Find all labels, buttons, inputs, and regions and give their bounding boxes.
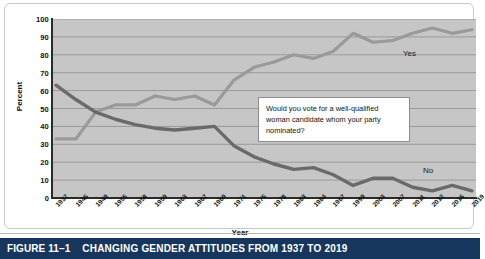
figure-title: CHANGING GENDER ATTITUDES FROM 1937 TO 2… [82,243,347,254]
y-axis-tick-column: 0102030405060708090100 [21,4,49,204]
y-axis-tick-label: 10 [25,176,49,185]
series-label-no: No [423,166,433,175]
y-axis-label: Percent [15,67,24,127]
figure-caption-bar: FIGURE 11–1 CHANGING GENDER ATTITUDES FR… [0,238,480,259]
y-axis-tick-label: 30 [25,140,49,149]
series-label-yes: Yes [403,49,416,58]
figure-number: FIGURE 11–1 [7,243,70,254]
caption-divider [0,233,480,234]
y-axis-tick-label: 60 [25,87,49,96]
y-axis-tick-label: 0 [25,194,49,203]
y-axis-tick-label: 80 [25,51,49,60]
chart-frame: 0102030405060708090100 Percent Yes No Wo… [4,3,474,229]
y-axis-tick-label: 20 [25,158,49,167]
y-axis-tick-label: 70 [25,69,49,78]
y-axis-line [51,18,53,199]
y-axis-tick-label: 100 [25,15,49,24]
y-axis-tick-label: 90 [25,33,49,42]
annotation-box: Would you vote for a well-qualified woma… [258,97,410,142]
y-axis-tick-label: 50 [25,105,49,114]
y-axis-tick-label: 40 [25,122,49,131]
